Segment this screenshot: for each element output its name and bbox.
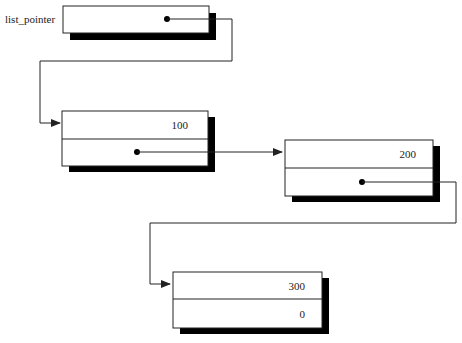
node-3-next-null: 0 (300, 308, 306, 320)
node-1-data: 100 (172, 119, 189, 131)
list-pointer-box (63, 6, 216, 40)
node-3: 300 0 (173, 272, 329, 334)
linked-list-diagram: list_pointer 100 200 300 0 (0, 0, 462, 343)
node-1: 100 (62, 111, 215, 172)
list-pointer-label: list_pointer (5, 13, 55, 25)
node-2-data: 200 (400, 148, 417, 160)
node-2: 200 (285, 140, 440, 202)
node-3-data: 300 (289, 280, 306, 292)
